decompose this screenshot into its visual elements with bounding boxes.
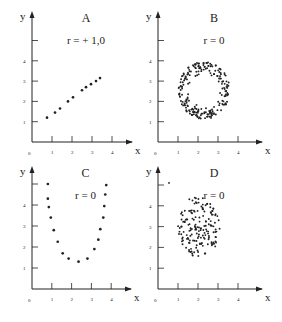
origin-label: 0 (28, 151, 31, 156)
data-point (180, 78, 182, 80)
data-point (210, 220, 212, 222)
data-point (103, 205, 106, 208)
data-point (221, 81, 223, 83)
data-point (180, 213, 182, 215)
data-point (185, 100, 187, 102)
data-point (200, 114, 202, 116)
data-point (187, 98, 189, 100)
panel-title: B (210, 11, 218, 25)
data-point (189, 70, 191, 72)
data-point (90, 83, 93, 86)
data-point (56, 240, 59, 243)
data-point (210, 224, 212, 226)
data-point (198, 70, 200, 72)
data-point (99, 77, 102, 80)
data-point (217, 109, 219, 111)
data-point (215, 240, 217, 242)
data-point (180, 85, 182, 87)
data-point (214, 245, 216, 247)
data-point (194, 226, 196, 228)
x-tick-label: 2 (197, 150, 200, 155)
x-tick-label: 2 (197, 297, 200, 302)
data-point (182, 243, 184, 245)
x-tick-label: 2 (71, 297, 74, 302)
data-point (182, 101, 184, 103)
data-point (202, 197, 204, 199)
data-point (202, 204, 204, 206)
data-point (211, 74, 213, 76)
data-point (227, 85, 229, 87)
data-point (207, 231, 209, 233)
data-point (219, 228, 221, 230)
data-point (105, 184, 108, 187)
data-point (188, 100, 190, 102)
y-tick-label: 4 (23, 203, 26, 208)
data-point (180, 89, 182, 91)
y-tick-label: 1 (23, 120, 26, 125)
data-point (226, 87, 228, 89)
data-point (213, 106, 215, 108)
data-point (182, 237, 184, 239)
data-point (204, 117, 206, 119)
panel-b: yx012341234Br = 0 (146, 10, 271, 156)
data-point (208, 223, 210, 225)
data-point (200, 228, 202, 230)
y-axis-arrow-icon (156, 11, 161, 18)
x-tick-label: 3 (91, 150, 94, 155)
data-point (46, 197, 49, 200)
data-point (213, 112, 215, 114)
data-point (200, 108, 202, 110)
data-point (204, 253, 206, 255)
data-point (223, 87, 225, 89)
data-point (203, 237, 205, 239)
data-point (168, 182, 170, 184)
data-point (67, 100, 70, 103)
data-point (203, 112, 205, 114)
data-point (208, 235, 210, 237)
data-point (188, 249, 190, 251)
data-point (208, 238, 210, 240)
x-tick-label: 3 (217, 297, 220, 302)
data-point (49, 216, 52, 219)
data-point (214, 70, 216, 72)
data-point (211, 109, 213, 111)
data-point (213, 242, 215, 244)
data-point (197, 65, 199, 67)
data-point (180, 81, 182, 83)
panel-title: C (81, 166, 89, 180)
x-tick-label: 3 (90, 297, 93, 302)
data-point (181, 88, 183, 90)
data-point (225, 90, 227, 92)
data-point (200, 70, 202, 72)
data-point (192, 200, 194, 202)
y-tick-label: 4 (23, 59, 26, 64)
data-point (226, 92, 228, 94)
data-point (196, 202, 198, 204)
data-point (181, 94, 183, 96)
x-axis-label: x (134, 291, 140, 303)
data-point (208, 70, 210, 72)
data-point (191, 212, 193, 214)
data-point (202, 208, 204, 210)
data-point (219, 102, 221, 104)
data-point (182, 221, 184, 223)
correlation-figure: yx012341234Ar = + 1,0 yx012341234Br = 0 … (0, 0, 282, 322)
data-point (209, 203, 211, 205)
y-tick-label: 1 (23, 266, 26, 271)
data-point (216, 215, 218, 217)
data-point (191, 114, 193, 116)
data-point (194, 106, 196, 108)
data-point (207, 116, 209, 118)
y-axis-label: y (146, 10, 152, 22)
data-point (67, 257, 70, 260)
panel-a: yx012341234Ar = + 1,0 (20, 10, 141, 156)
data-point (197, 255, 199, 257)
data-point (104, 193, 107, 196)
data-point (215, 113, 217, 115)
data-point (215, 229, 217, 231)
data-point (181, 226, 183, 228)
data-point (211, 64, 213, 66)
data-point (218, 68, 220, 70)
data-point (207, 233, 209, 235)
data-point (196, 104, 198, 106)
